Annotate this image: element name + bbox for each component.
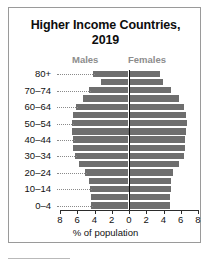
bar-males [72,120,129,126]
x-axis-tick-label: 6 [174,214,188,225]
bar-females [129,136,186,142]
bar-males [73,145,128,151]
y-label-leader [57,74,95,76]
y-axis-label: 80+ [35,68,51,79]
chart-figure: Higher Income Countries, 2019 Males Fema… [8,7,201,243]
bar-males [73,112,128,118]
legend-label-males: Males [72,54,98,65]
bar-males [101,79,129,85]
x-axis-tick-label: 8 [191,214,205,225]
y-label-leader [57,107,78,109]
x-axis-title: % of population [9,227,202,238]
x-axis-tick-label: 2 [105,214,119,225]
y-label-leader [57,173,87,175]
bar-males [89,178,129,184]
bar-males [76,104,129,110]
x-axis-tick-label: 8 [53,214,67,225]
legend-label-females: Females [128,54,166,65]
bar-females [129,79,164,85]
y-label-leader [57,140,75,142]
y-axis-label: 30–34 [25,150,51,161]
y-axis-label: 70–74 [25,85,51,96]
y-axis-label: 50–54 [25,118,51,129]
bar-males [85,169,129,175]
y-label-leader [57,124,74,126]
center-axis-line [129,70,130,210]
y-axis-labels: 80+70–7460–6450–5440–4430–3420–2410–140–… [7,70,51,210]
bar-females [129,194,170,200]
bar-males [75,153,128,159]
y-axis-label: 10–14 [25,183,51,194]
x-axis-tick-label: 0 [122,214,136,225]
y-axis-label: 20–24 [25,167,51,178]
x-axis-tick-label: 6 [70,214,84,225]
bar-females [129,169,174,175]
bar-males [72,128,128,134]
bar-males [73,136,128,142]
bar-females [129,178,171,184]
bar-females [129,145,186,151]
y-label-leader [57,189,92,191]
footer-divider [8,258,70,259]
bar-females [129,128,187,134]
y-label-leader [57,156,77,158]
bar-females [129,112,187,118]
bar-males [90,186,129,192]
bar-females [129,95,179,101]
bar-females [129,161,179,167]
y-label-leader [57,206,93,208]
y-axis-label: 0–4 [35,200,51,211]
bar-males [89,87,129,93]
bar-females [129,71,160,77]
bar-females [129,120,188,126]
x-axis-tick-label: 4 [157,214,171,225]
bar-males [79,161,128,167]
bar-females [129,153,184,159]
x-axis-tick-label: 2 [139,214,153,225]
y-label-leader [57,91,91,93]
bar-females [129,104,184,110]
y-axis-label: 60–64 [25,101,51,112]
bar-males [91,202,128,208]
x-axis-tick-label: 4 [88,214,102,225]
bar-females [129,202,170,208]
bar-males [83,95,129,101]
chart-title-line-1: Higher Income Countries, [31,18,181,32]
bar-females [129,186,171,192]
chart-title-line-2: 2019 [9,33,202,48]
bar-females [129,87,171,93]
y-axis-label: 40–44 [25,134,51,145]
bar-males [93,71,128,77]
bar-males [91,194,129,200]
chart-title: Higher Income Countries, 2019 [9,18,202,48]
